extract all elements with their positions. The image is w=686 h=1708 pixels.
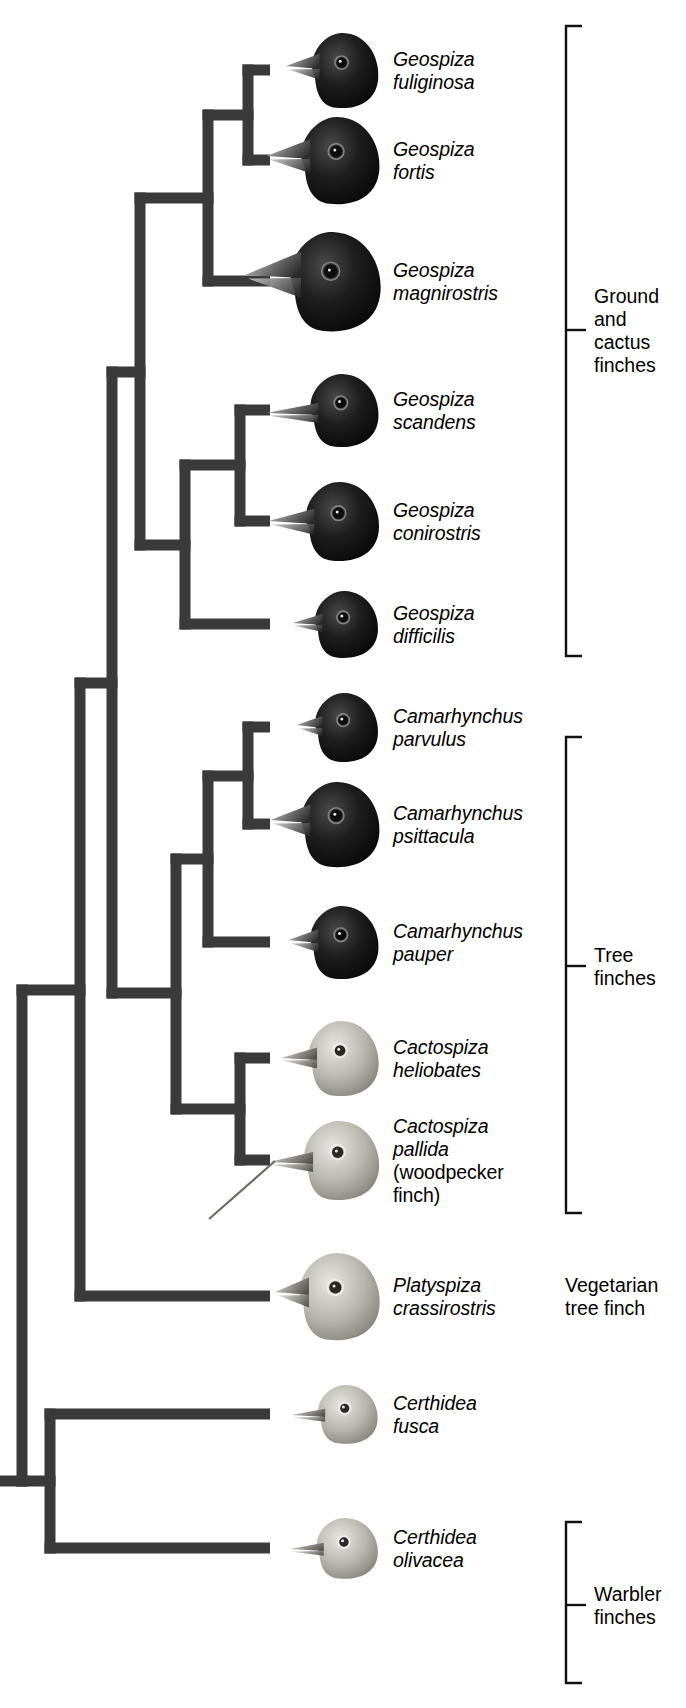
species-epithet: heliobates — [393, 1059, 481, 1081]
taxon-label-olivacea: Certhideaolivacea — [393, 1526, 543, 1572]
species-epithet: fortis — [393, 161, 435, 183]
group-label-tree: Tree finches — [594, 944, 686, 990]
taxon-label-magnirostris: Geospizamagnirostris — [393, 259, 543, 305]
taxon-label-conirostris: Geospizaconirostris — [393, 499, 543, 545]
species-epithet: fuliginosa — [393, 71, 474, 93]
genus-name: Geospiza — [393, 48, 475, 70]
genus-name: Camarhynchus — [393, 920, 523, 942]
taxon-label-heliobates: Cactospizaheliobates — [393, 1036, 543, 1082]
taxon-label-scandens: Geospizascandens — [393, 388, 543, 434]
group-label-vegetarian: Vegetarian tree finch — [565, 1274, 683, 1320]
genus-name: Geospiza — [393, 138, 475, 160]
genus-name: Cactospiza — [393, 1115, 488, 1137]
taxon-label-psittacula: Camarhynchuspsittacula — [393, 802, 543, 848]
species-epithet: fusca — [393, 1415, 439, 1437]
taxon-label-crassirostris: Platyspizacrassirostris — [393, 1274, 543, 1320]
genus-name: Camarhynchus — [393, 705, 523, 727]
genus-name: Geospiza — [393, 388, 475, 410]
genus-name: Geospiza — [393, 499, 475, 521]
taxon-label-difficilis: Geospizadifficilis — [393, 602, 543, 648]
species-epithet: parvulus — [393, 728, 466, 750]
genus-name: Geospiza — [393, 602, 475, 624]
genus-name: Cactospiza — [393, 1036, 488, 1058]
taxon-label-pauper: Camarhynchuspauper — [393, 920, 543, 966]
taxon-label-fortis: Geospizafortis — [393, 138, 543, 184]
taxon-label-pallida: Cactospizapallida(woodpecker finch) — [393, 1115, 543, 1207]
species-epithet: olivacea — [393, 1549, 464, 1571]
species-epithet: difficilis — [393, 625, 455, 647]
species-epithet: pallida — [393, 1138, 449, 1160]
bracket-ground-cactus — [566, 26, 582, 656]
genus-name: Certhidea — [393, 1392, 477, 1414]
species-epithet: psittacula — [393, 825, 474, 847]
bracket-tree — [566, 737, 582, 1213]
bracket-warbler — [566, 1522, 582, 1683]
species-epithet: conirostris — [393, 522, 481, 544]
genus-name: Camarhynchus — [393, 802, 523, 824]
group-label-ground-cactus: Ground and cactus finches — [594, 285, 686, 377]
genus-name: Certhidea — [393, 1526, 477, 1548]
group-brackets — [0, 0, 686, 1708]
common-name: (woodpecker finch) — [393, 1161, 504, 1206]
species-epithet: magnirostris — [393, 282, 498, 304]
genus-name: Platyspiza — [393, 1274, 481, 1296]
taxon-label-parvulus: Camarhynchusparvulus — [393, 705, 543, 751]
taxon-label-fuliginosa: Geospizafuliginosa — [393, 48, 543, 94]
group-label-warbler: Warbler finches — [594, 1583, 686, 1629]
species-epithet: scandens — [393, 411, 476, 433]
phylogeny-figure: GeospizafuliginosaGeospizafortisGeospiza… — [0, 0, 686, 1708]
species-epithet: crassirostris — [393, 1297, 496, 1319]
taxon-label-fusca: Certhideafusca — [393, 1392, 543, 1438]
species-epithet: pauper — [393, 943, 453, 965]
genus-name: Geospiza — [393, 259, 475, 281]
